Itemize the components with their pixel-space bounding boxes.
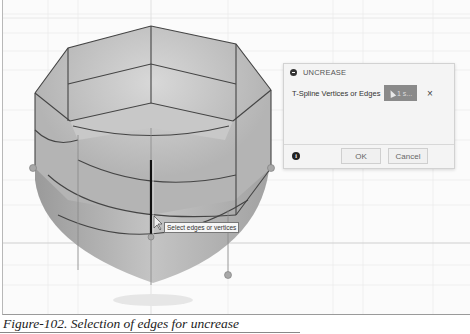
dialog-title: UNCREASE (303, 68, 346, 77)
clear-selection-icon[interactable]: × (427, 88, 433, 99)
collapse-icon[interactable] (290, 69, 297, 76)
select-cursor-icon (388, 89, 396, 98)
selection-tooltip: Select edges or vertices (164, 222, 239, 233)
dialog-footer: i OK Cancel (284, 146, 454, 166)
dialog-header[interactable]: UNCREASE (284, 64, 454, 81)
uncrease-dialog: UNCREASE T-Spline Vertices or Edges 1 s.… (283, 63, 455, 169)
field-label: T-Spline Vertices or Edges (292, 89, 384, 98)
selection-count: 1 s... (397, 90, 412, 97)
ok-button[interactable]: OK (341, 148, 381, 164)
divider (284, 144, 454, 145)
figure-caption: Figure-102. Selection of edges for uncre… (3, 316, 239, 332)
caption-underline (0, 332, 300, 333)
selection-row: T-Spline Vertices or Edges 1 s... × (284, 82, 454, 104)
selection-button[interactable]: 1 s... (384, 85, 417, 101)
cancel-button[interactable]: Cancel (388, 148, 428, 164)
info-icon[interactable]: i (292, 152, 300, 160)
